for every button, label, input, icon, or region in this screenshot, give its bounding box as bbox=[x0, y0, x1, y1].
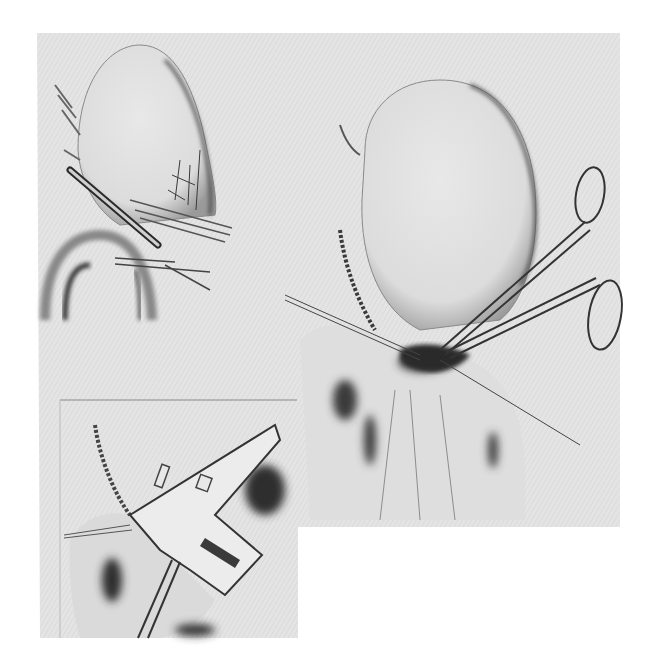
illustration-canvas bbox=[0, 0, 649, 665]
